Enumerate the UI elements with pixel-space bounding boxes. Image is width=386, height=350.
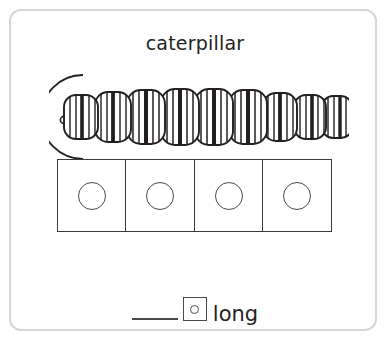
answer-unit-box: [183, 297, 207, 321]
circle-icon: [78, 182, 106, 210]
count-box[interactable]: [194, 159, 264, 232]
caterpillar-segment-2: [95, 92, 131, 142]
caterpillar-segment-5: [195, 89, 233, 145]
circle-icon: [190, 305, 199, 314]
caterpillar-segment-7: [263, 93, 297, 141]
answer-unit-label: long: [213, 304, 258, 325]
count-box[interactable]: [262, 159, 332, 232]
circle-icon: [283, 182, 311, 210]
caterpillar-figure: [49, 73, 349, 161]
caterpillar-icon: [49, 73, 349, 161]
worksheet-card: caterpillar: [9, 9, 377, 331]
count-box[interactable]: [57, 159, 127, 232]
count-box[interactable]: [125, 159, 195, 232]
caterpillar-segment-8: [294, 95, 326, 139]
caterpillar-segment-4: [161, 89, 199, 145]
answer-blank-line[interactable]: [132, 318, 178, 320]
circle-icon: [215, 182, 243, 210]
caterpillar-segment-6: [229, 90, 267, 144]
circle-icon: [146, 182, 174, 210]
page-title: caterpillar: [11, 32, 379, 54]
answer-row: long: [11, 288, 379, 324]
counting-boxes-row: [57, 159, 332, 232]
caterpillar-segment-3: [127, 90, 165, 144]
caterpillar-segment-1: [64, 95, 98, 139]
